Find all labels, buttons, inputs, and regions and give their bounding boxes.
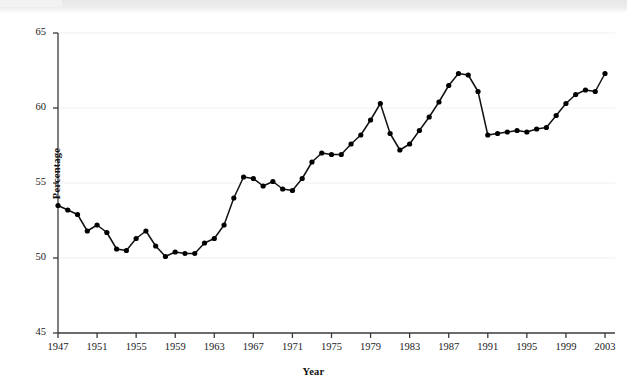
data-point xyxy=(251,176,256,181)
data-point xyxy=(348,141,353,146)
x-tick-label: 1971 xyxy=(272,341,312,352)
data-point xyxy=(329,152,334,157)
y-tick-label: 55 xyxy=(24,176,46,187)
x-tick-label: 1983 xyxy=(390,341,430,352)
data-point xyxy=(104,230,109,235)
data-point xyxy=(124,248,129,253)
x-tick-label: 1991 xyxy=(468,341,508,352)
y-tick-label: 45 xyxy=(24,326,46,337)
data-point xyxy=(192,251,197,256)
data-point xyxy=(368,117,373,122)
data-point xyxy=(427,114,432,119)
data-point xyxy=(544,125,549,130)
y-tick-label: 50 xyxy=(24,251,46,262)
x-tick-label: 1955 xyxy=(116,341,156,352)
data-point xyxy=(534,126,539,131)
data-point xyxy=(573,92,578,97)
data-point xyxy=(495,131,500,136)
data-point xyxy=(202,240,207,245)
data-point xyxy=(554,113,559,118)
y-tick-label: 65 xyxy=(24,26,46,37)
y-tick-label: 60 xyxy=(24,101,46,112)
x-tick-label: 1979 xyxy=(351,341,391,352)
data-point xyxy=(466,72,471,77)
data-point xyxy=(358,132,363,137)
data-point xyxy=(505,129,510,134)
x-axis-title: Year xyxy=(0,366,627,377)
x-tick-label: 1967 xyxy=(233,341,273,352)
data-point xyxy=(75,212,80,217)
data-point xyxy=(309,159,314,164)
x-tick-label: 1947 xyxy=(38,341,78,352)
data-point xyxy=(173,249,178,254)
data-point xyxy=(583,87,588,92)
data-point xyxy=(221,222,226,227)
x-tick-label: 2003 xyxy=(585,341,625,352)
x-tick-label: 1975 xyxy=(312,341,352,352)
x-tick-label: 1999 xyxy=(546,341,586,352)
data-point xyxy=(241,174,246,179)
data-point xyxy=(270,179,275,184)
data-point xyxy=(163,254,168,259)
x-tick-marks-group xyxy=(58,333,605,338)
data-point xyxy=(436,99,441,104)
data-point xyxy=(339,152,344,157)
data-point xyxy=(231,195,236,200)
data-point xyxy=(602,71,607,76)
data-point xyxy=(378,101,383,106)
x-tick-label: 1959 xyxy=(155,341,195,352)
data-point xyxy=(290,188,295,193)
data-point xyxy=(114,246,119,251)
data-point xyxy=(407,141,412,146)
data-point xyxy=(563,101,568,106)
x-tick-label: 1987 xyxy=(429,341,469,352)
gridlines-group xyxy=(58,33,615,258)
x-tick-label: 1951 xyxy=(77,341,117,352)
data-series-line xyxy=(58,74,605,257)
data-point xyxy=(524,129,529,134)
data-point xyxy=(85,228,90,233)
x-tick-label: 1995 xyxy=(507,341,547,352)
data-point xyxy=(388,131,393,136)
data-point xyxy=(134,236,139,241)
x-tick-label: 1963 xyxy=(194,341,234,352)
data-point xyxy=(280,186,285,191)
data-point xyxy=(593,89,598,94)
data-point xyxy=(485,132,490,137)
data-point xyxy=(397,147,402,152)
data-point xyxy=(446,83,451,88)
data-point xyxy=(261,183,266,188)
data-point xyxy=(417,128,422,133)
data-point xyxy=(212,236,217,241)
y-axis-title: Percentage xyxy=(51,114,62,234)
data-point xyxy=(94,222,99,227)
data-point xyxy=(456,71,461,76)
data-point xyxy=(182,251,187,256)
data-point xyxy=(319,150,324,155)
line-chart-plot xyxy=(0,0,627,389)
data-point xyxy=(300,176,305,181)
data-point xyxy=(153,243,158,248)
data-point xyxy=(143,228,148,233)
data-point xyxy=(65,207,70,212)
data-series-markers xyxy=(55,71,607,259)
data-point xyxy=(475,89,480,94)
figure-container: Percentage Year 4550556065 1947195119551… xyxy=(0,0,627,389)
data-point xyxy=(514,128,519,133)
